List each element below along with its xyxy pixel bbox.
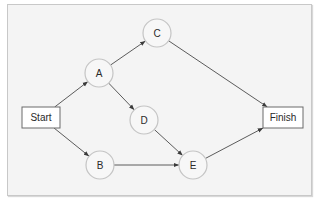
node-label: B: [97, 160, 104, 171]
node-a: A: [85, 59, 113, 87]
node-finish: Finish: [263, 107, 303, 128]
edge-d-to-e: [154, 129, 182, 155]
node-e: E: [179, 151, 207, 179]
edges: [54, 41, 267, 165]
node-label: E: [190, 160, 197, 171]
node-label: D: [140, 115, 147, 126]
edge-a-to-c: [111, 41, 146, 65]
edge-a-to-d: [109, 83, 135, 110]
node-d: D: [130, 106, 158, 134]
network-diagram: StartACDBEFinish: [0, 0, 325, 206]
node-label: C: [153, 28, 160, 39]
nodes: StartACDBEFinish: [22, 19, 303, 179]
node-label: Finish: [270, 112, 297, 123]
node-start: Start: [22, 107, 60, 128]
edge-start-to-b: [54, 128, 89, 156]
edge-c-to-finish: [169, 41, 268, 107]
edge-start-to-a: [55, 82, 88, 107]
node-c: C: [143, 19, 171, 47]
edge-e-to-finish: [205, 128, 263, 158]
node-label: Start: [30, 112, 51, 123]
node-label: A: [96, 68, 103, 79]
node-b: B: [86, 151, 114, 179]
